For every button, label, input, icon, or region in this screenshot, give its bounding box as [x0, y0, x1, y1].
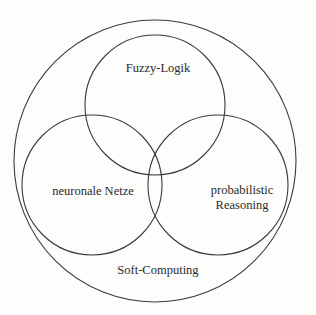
- label-probabilistic-line2: Reasoning: [186, 198, 298, 213]
- label-neuronale-netze: neuronale Netze: [0, 184, 186, 199]
- label-soft-computing: Soft-Computing: [0, 263, 316, 278]
- label-fuzzy-logik: Fuzzy-Logik: [0, 61, 316, 76]
- label-probabilistic-reasoning: probabilistic Reasoning: [186, 183, 298, 213]
- venn-diagram-figure: Fuzzy-Logik neuronale Netze probabilisti…: [0, 0, 316, 315]
- label-probabilistic-line1: probabilistic: [186, 183, 298, 198]
